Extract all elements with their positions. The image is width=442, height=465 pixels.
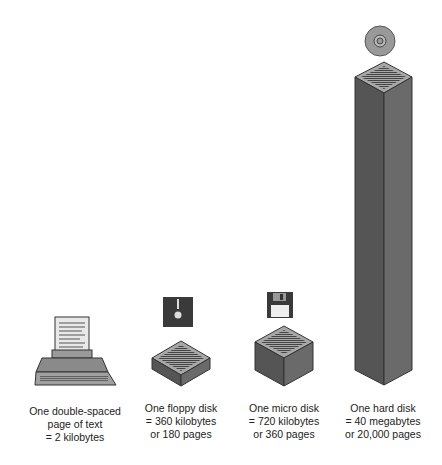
label-hard: One hard disk = 40 megabytes or 20,000 p… xyxy=(328,402,438,441)
floppy-disk-icon xyxy=(163,297,193,327)
micro-disk-icon xyxy=(267,292,293,318)
floppy-capacity-block xyxy=(152,341,210,386)
label-micro: One micro disk = 720 kilobytes or 360 pa… xyxy=(229,402,339,441)
hard-disk-capacity-block xyxy=(355,62,412,385)
hard-disk-platter-icon xyxy=(365,26,395,56)
typewriter-icon xyxy=(35,317,116,385)
storage-comparison-diagram xyxy=(0,0,442,465)
label-page: One double-spaced page of text = 2 kilob… xyxy=(20,405,130,444)
label-floppy: One floppy disk = 360 kilobytes or 180 p… xyxy=(126,402,236,441)
micro-disk-capacity-block xyxy=(255,326,313,386)
